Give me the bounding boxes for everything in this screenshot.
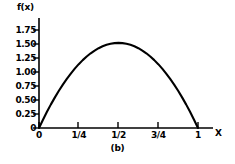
- x-tick-label: 1: [195, 131, 201, 140]
- figure-caption: (b): [0, 144, 235, 153]
- x-tick-label: 0: [36, 131, 42, 140]
- x-axis-tick-labels: 01/41/23/41: [0, 0, 235, 164]
- x-tick-label: 3/4: [151, 131, 166, 140]
- x-tick-label: 1/2: [111, 131, 126, 140]
- figure-panel: f(x) X 00.250.500.751.001.251.501.75 01/…: [0, 0, 235, 164]
- x-tick-label: 1/4: [71, 131, 86, 140]
